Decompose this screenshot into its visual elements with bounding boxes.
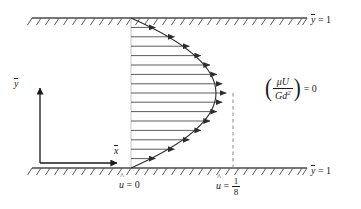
left-paren: (: [265, 77, 272, 101]
velocity-arrows: [131, 27, 226, 158]
wall-velocity-label: u = 0: [119, 178, 140, 190]
right-paren: ): [294, 77, 301, 101]
y-axis-label: y: [14, 78, 18, 89]
max-velocity-label: u = 18: [216, 176, 240, 198]
top-wall-hatching: [28, 18, 308, 25]
equals-zero: = 0: [302, 84, 317, 94]
bottom-wall-hatching: [28, 168, 308, 175]
coordinate-axes: [40, 88, 117, 163]
diagram-canvas: [0, 0, 361, 209]
top-wall: [28, 18, 308, 25]
bottom-wall: [28, 168, 308, 175]
bottom-wall-label: y = 1: [311, 165, 331, 176]
mu-U-over-Gd2-fraction: μU Gd2: [273, 76, 293, 101]
top-wall-label: y = 1: [311, 14, 331, 25]
velocity-profile-figure: y = 1 y = 1 y x u = 0 u = 18 ( μU Gd2 ) …: [0, 0, 361, 209]
x-axis-label: x: [114, 145, 118, 156]
parameter-group-equation: ( μU Gd2 ) = 0: [265, 76, 317, 101]
